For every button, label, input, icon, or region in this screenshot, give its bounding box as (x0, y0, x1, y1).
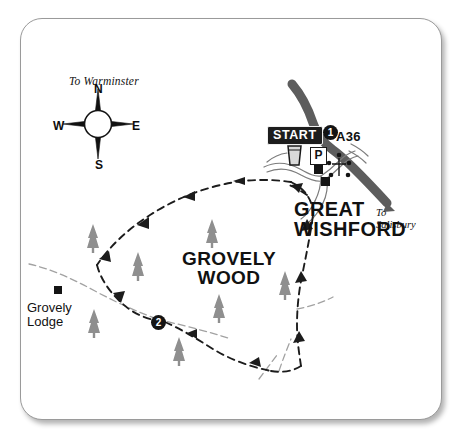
label-to-warminster: To Warminster (69, 76, 139, 88)
label-a36-road-number: A36 (336, 130, 361, 143)
grovely-lodge-building-icon (54, 286, 62, 294)
compass-label-west: W (53, 119, 64, 133)
parking-icon: P (310, 147, 327, 165)
compass-label-east: E (132, 119, 140, 133)
pint-glass-icon (288, 146, 301, 165)
waypoint-marker-1: 1 (323, 125, 338, 140)
label-great-wishford: GREAT WISHFORD (294, 200, 406, 239)
compass-label-north: N (94, 82, 103, 96)
compass-label-south: S (95, 158, 103, 172)
a36-road (292, 84, 395, 212)
compass-rose (63, 89, 133, 159)
building-square-icon (321, 177, 330, 186)
map-card: To Warminster To Salisbury A36 GREAT WIS… (20, 18, 442, 420)
label-grovely-wood: GROVELY WOOD (164, 249, 294, 287)
waypoint-marker-2: 2 (151, 315, 166, 330)
label-grovely-lodge: Grovely Lodge (27, 301, 72, 328)
building-square-icon (314, 165, 323, 174)
start-badge: START (267, 126, 323, 145)
